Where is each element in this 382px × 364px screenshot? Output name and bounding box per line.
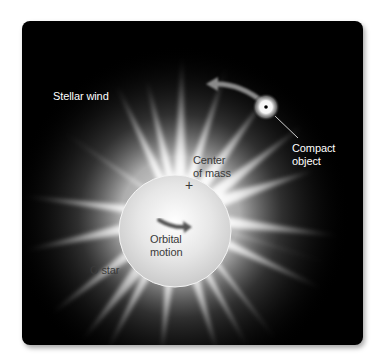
compact-object-label-line1: Compact [292,142,335,155]
o-star-body [119,175,231,287]
diagram-panel: Stellar wind Compact object Center of ma… [22,21,363,345]
o-star-label: O star [90,264,119,277]
center-of-mass-label-line2: of mass [193,167,231,180]
stellar-wind-label: Stellar wind [53,90,109,103]
compact-object-label-line2: object [292,155,321,168]
orbital-motion-label-line1: Orbital [150,233,182,246]
compact-object-core [264,105,268,109]
orbital-motion-label-line2: motion [150,246,182,259]
center-of-mass-marker: + [185,179,193,192]
center-of-mass-label-line1: Center [193,154,225,167]
